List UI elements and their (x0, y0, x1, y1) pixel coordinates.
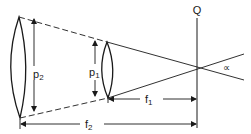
lower-dashed-ray (20, 98, 108, 118)
upper-dashed-ray (19, 17, 107, 42)
alpha-label: ∝ (223, 62, 230, 73)
small-lens (102, 42, 113, 98)
q-label: Q (193, 4, 202, 16)
p1-label: p1 (89, 66, 100, 80)
large-lens (11, 17, 26, 118)
f2-label: f2 (85, 118, 93, 132)
f1-label: f1 (145, 93, 153, 107)
svg-text:f1: f1 (145, 93, 153, 107)
telescope-diagram: Q ∝ p2 p1 f1 f2 (0, 0, 251, 134)
svg-text:p2: p2 (33, 68, 44, 82)
lower-solid-ray (108, 54, 244, 98)
svg-text:f2: f2 (85, 118, 93, 132)
svg-text:p1: p1 (89, 66, 100, 80)
p2-label: p2 (33, 68, 44, 82)
